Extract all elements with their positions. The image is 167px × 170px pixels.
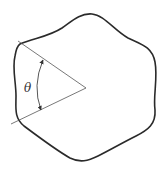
- angle-arc: [37, 60, 43, 110]
- lower-radial-line: [11, 88, 86, 124]
- angle-theta-label: θ: [24, 82, 31, 94]
- diagram-figure: θ: [0, 0, 167, 170]
